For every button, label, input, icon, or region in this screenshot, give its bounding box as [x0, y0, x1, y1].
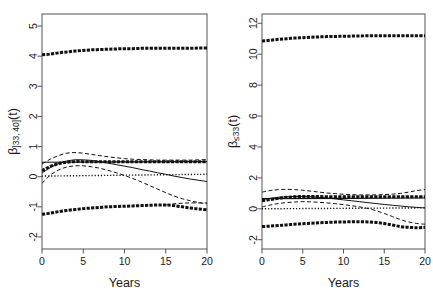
series-lower-confidence-band: [42, 205, 207, 214]
series-upper-confidence-band: [262, 36, 425, 41]
panel-left: 05101520-2-1012345Yearsβ]33, 40](t): [0, 0, 216, 295]
y-tick-label: 2: [27, 113, 39, 119]
curves-group: [262, 36, 425, 228]
x-tick-label: 20: [201, 255, 213, 267]
x-tick-label: 10: [338, 255, 350, 267]
x-axis-label: Years: [109, 276, 141, 290]
x-tick-label: 15: [378, 255, 390, 267]
y-tick-label: 4: [247, 144, 259, 150]
plot-left: 05101520-2-1012345Yearsβ]33, 40](t): [0, 0, 216, 295]
x-tick-label: 20: [419, 255, 431, 267]
x-tick-label: 10: [119, 255, 131, 267]
y-tick-label: -2: [27, 232, 39, 241]
y-axis-label: β≤33(t): [226, 115, 241, 148]
y-tick-label: -1: [27, 202, 39, 211]
series-lower-confidence-band: [262, 222, 425, 228]
series-zero-reference-line: [42, 174, 207, 176]
plot-right: 05101520-2024681012Yearsβ≤33(t): [216, 0, 433, 295]
y-tick-label: 4: [27, 53, 39, 59]
y-axis-label: β]33, 40](t): [6, 108, 21, 155]
y-tick-label: 8: [247, 82, 259, 88]
y-tick-label: -2: [247, 235, 259, 244]
y-tick-label: 1: [27, 143, 39, 149]
x-tick-label: 0: [39, 255, 45, 267]
x-tick-label: 5: [300, 255, 306, 267]
series-zero-reference-line: [262, 208, 425, 209]
y-tick-label: 12: [247, 17, 259, 29]
y-tick-label: 0: [27, 174, 39, 180]
y-tick-label: 3: [27, 83, 39, 89]
figure-container: 05101520-2-1012345Yearsβ]33, 40](t) 0510…: [0, 0, 433, 295]
x-tick-label: 0: [259, 255, 265, 267]
y-tick-label: 10: [247, 48, 259, 60]
curves-group: [42, 48, 207, 214]
series-time-varying-upper-ci: [262, 189, 425, 195]
y-tick-label: 0: [247, 206, 259, 212]
panel-right: 05101520-2024681012Yearsβ≤33(t): [216, 0, 433, 295]
y-tick-label: 2: [247, 175, 259, 181]
series-upper-confidence-band: [42, 48, 207, 55]
x-tick-label: 5: [80, 255, 86, 267]
plot-frame: [262, 14, 425, 249]
y-tick-label: 6: [247, 113, 259, 119]
x-tick-label: 15: [160, 255, 172, 267]
x-axis-label: Years: [328, 276, 360, 290]
series-time-varying-lower-ci: [42, 166, 207, 204]
y-axis-label-text: β≤33(t): [226, 115, 241, 148]
y-tick-label: 5: [27, 23, 39, 29]
y-axis-label-text: β]33, 40](t): [6, 108, 21, 155]
